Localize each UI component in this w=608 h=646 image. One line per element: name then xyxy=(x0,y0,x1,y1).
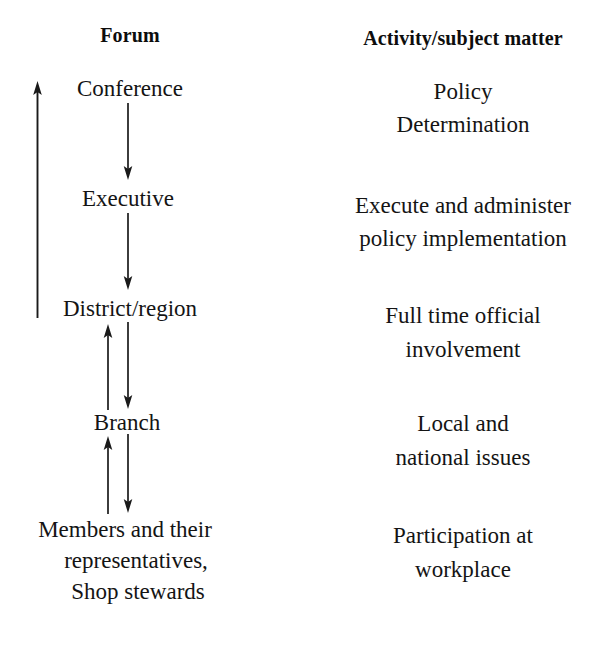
activity-full-time-official-line1: Full time official xyxy=(385,303,540,329)
arrow-branch-to-district-up xyxy=(98,322,118,412)
forum-node-members-line3: Shop stewards xyxy=(71,579,205,605)
forum-column-header: Forum xyxy=(100,24,159,47)
forum-node-members-line1: Members and their xyxy=(38,517,212,543)
activity-local-national-line2: national issues xyxy=(396,445,531,471)
forum-node-members-line2: representatives, xyxy=(64,548,208,574)
activity-participation-line1: Participation at xyxy=(393,523,533,549)
arrow-branch-to-members-down xyxy=(118,434,138,516)
forum-node-branch: Branch xyxy=(94,410,160,436)
forum-node-conference: Conference xyxy=(77,76,183,102)
forum-node-executive: Executive xyxy=(82,186,174,212)
arrow-executive-to-district-down xyxy=(118,213,138,293)
activity-full-time-official-line2: involvement xyxy=(406,337,521,363)
org-hierarchy-diagram: Forum Activity/subject matter Conference… xyxy=(0,0,608,646)
activity-execute-administer-line2: policy implementation xyxy=(359,226,567,252)
arrow-members-to-branch-up xyxy=(98,434,118,516)
activity-local-national-line1: Local and xyxy=(417,411,508,437)
activity-column-header: Activity/subject matter xyxy=(363,27,562,50)
arrow-district-to-branch-down xyxy=(118,322,138,412)
arrow-conference-to-executive-down xyxy=(118,103,138,183)
activity-execute-administer-line1: Execute and administer xyxy=(355,193,571,219)
activity-participation-line2: workplace xyxy=(415,557,511,583)
forum-node-district-region: District/region xyxy=(63,296,197,322)
activity-policy-determination-line1: Policy xyxy=(434,79,493,105)
activity-policy-determination-line2: Determination xyxy=(397,112,530,138)
arrow-feedback-spine-up xyxy=(28,78,48,320)
